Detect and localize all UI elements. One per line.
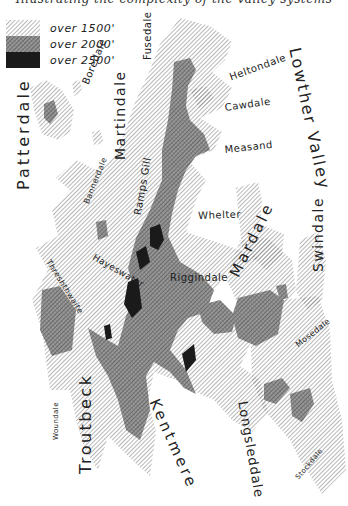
hatch-swatch-icon — [6, 20, 40, 36]
label-woundale: Woundale — [52, 402, 60, 440]
label-troutbeck: Troutbeck — [76, 374, 95, 474]
label-swindale: Swindale — [310, 197, 326, 272]
label-riggindale: Riggindale — [170, 272, 228, 283]
solid-swatch-icon — [6, 52, 40, 68]
label-whelter: Whelter — [198, 209, 241, 221]
legend-item-1500: over 1500' — [6, 20, 115, 36]
legend-label-1500: over 1500' — [50, 22, 115, 35]
label-martindale: Martindale — [112, 70, 128, 160]
crosshatch-swatch-icon — [6, 36, 40, 52]
label-patterdale: Patterdale — [14, 78, 33, 190]
legend-label-2500: over 2500' — [50, 54, 115, 67]
label-fusedale: Fusedale — [142, 12, 153, 60]
